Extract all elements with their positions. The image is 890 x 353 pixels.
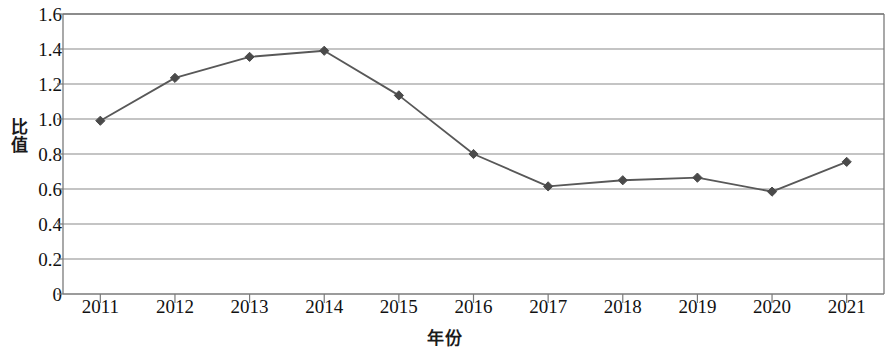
x-axis-tick-label: 2016 [439, 297, 509, 316]
x-axis-tick-label: 2020 [737, 297, 807, 316]
x-axis-tick-label: 2017 [513, 297, 583, 316]
x-axis-tick-label: 2021 [812, 297, 882, 316]
x-axis-title: 年份 [0, 324, 890, 349]
x-axis-tick-label: 2015 [364, 297, 434, 316]
line-chart: 比值 00.20.40.60.81.01.21.41.6 20112012201… [0, 0, 890, 353]
x-axis-tick-labels: 2011201220132014201520162017201820192020… [0, 0, 890, 353]
x-axis-tick-label: 2018 [588, 297, 658, 316]
x-axis-tick-label: 2014 [289, 297, 359, 316]
x-axis-tick-label: 2013 [215, 297, 285, 316]
x-axis-tick-label: 2011 [65, 297, 135, 316]
x-axis-tick-label: 2019 [662, 297, 732, 316]
x-axis-tick-label: 2012 [140, 297, 210, 316]
